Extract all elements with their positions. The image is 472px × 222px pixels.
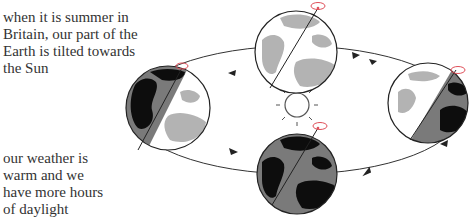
earth-globe-right [388,63,472,150]
spin-marker-icon [313,123,327,130]
earth-globe-left [120,60,210,156]
earth-globe-top [255,3,337,94]
earth-globe-bottom [257,123,338,215]
orbit-diagram [0,0,472,222]
spin-marker-icon [451,67,465,74]
